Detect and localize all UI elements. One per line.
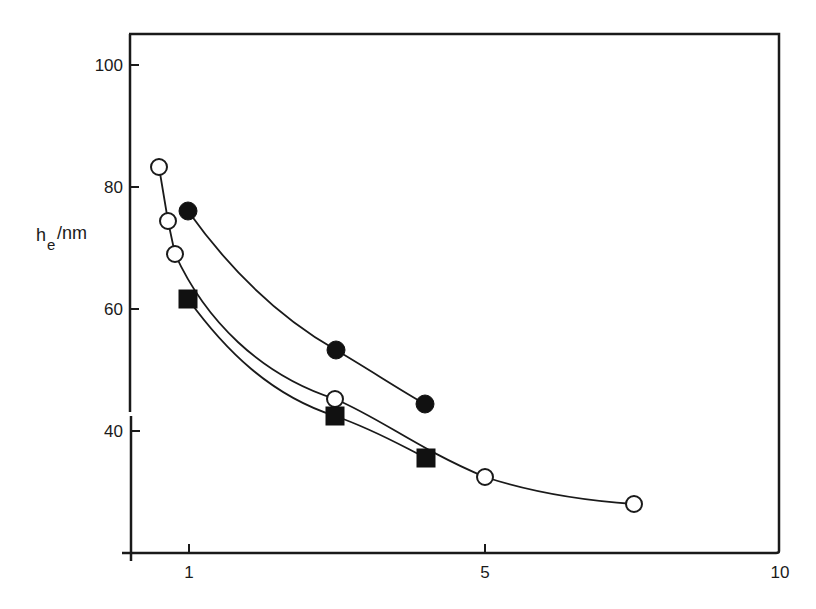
open-circle-point: [626, 496, 642, 512]
curve-open-circles: [159, 167, 634, 504]
y-axis-title-unit: /nm: [57, 223, 87, 243]
y-axis-title-subscript: e: [47, 236, 55, 253]
open-circle-point: [151, 159, 167, 175]
open-circle-point: [327, 391, 343, 407]
x-tick-label-5: 5: [480, 563, 489, 582]
y-ticks: 100 80 60 40: [95, 56, 140, 441]
series-open-circles: [151, 159, 642, 512]
plot-frame: [122, 34, 779, 553]
series-filled-circles: [179, 202, 434, 413]
curve-filled-squares: [188, 299, 426, 458]
curve-filled-circles: [188, 211, 425, 404]
x-tick-label-10: 10: [771, 563, 790, 582]
x-tick-label-1: 1: [184, 563, 193, 582]
series-filled-squares: [179, 290, 435, 467]
filled-square-point: [326, 407, 344, 425]
filled-circle-point: [179, 202, 197, 220]
y-tick-label-80: 80: [104, 178, 123, 197]
y-tick-label-40: 40: [104, 422, 123, 441]
filled-circle-point: [327, 341, 345, 359]
chart: 100 80 60 40 1 5 10 h e /nm: [0, 0, 816, 609]
open-circle-point: [167, 246, 183, 262]
open-circle-point: [160, 213, 176, 229]
filled-square-point: [417, 449, 435, 467]
y-tick-label-60: 60: [104, 300, 123, 319]
open-circle-point: [477, 469, 493, 485]
y-axis-title-main: h: [36, 225, 46, 245]
y-tick-label-100: 100: [95, 56, 123, 75]
filled-square-point: [179, 290, 197, 308]
filled-circle-point: [416, 395, 434, 413]
x-ticks: 1 5 10: [184, 544, 789, 582]
y-axis-title: h e /nm: [36, 223, 87, 253]
